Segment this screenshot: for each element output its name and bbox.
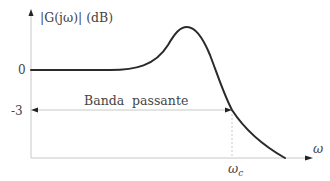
cutoff-frequency-label: ωc bbox=[228, 161, 243, 178]
y-tick-0: 0 bbox=[18, 63, 26, 77]
y-axis-label: |G(jω)| (dB) bbox=[40, 10, 113, 25]
y-axis-arrowhead-icon bbox=[29, 9, 34, 16]
x-axis-arrowhead-icon bbox=[305, 156, 313, 161]
bode-diagram: |G(jω)| (dB) ω 0 -3 Banda passante ωc bbox=[0, 0, 330, 181]
passband-left-arrowhead-icon bbox=[31, 108, 38, 113]
passband-label: Banda passante bbox=[84, 93, 188, 108]
x-axis-label: ω bbox=[313, 141, 323, 156]
y-tick-minus3: -3 bbox=[11, 104, 23, 118]
